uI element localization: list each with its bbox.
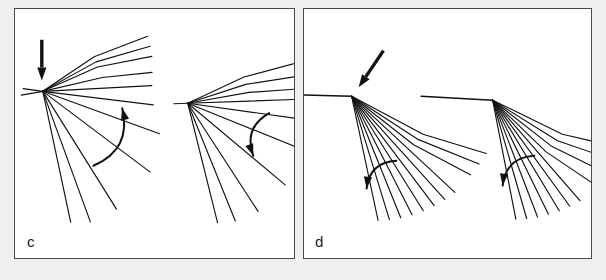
fan-diagram-d-right bbox=[421, 96, 591, 219]
panel-label-c: c bbox=[27, 234, 35, 249]
panel-c: c bbox=[14, 8, 295, 259]
panel-label-d: d bbox=[315, 234, 323, 249]
fan-diagram-c-right bbox=[174, 62, 294, 222]
panel-c-drawing bbox=[15, 9, 294, 258]
panel-d: d bbox=[303, 8, 592, 259]
figure-root: c d bbox=[0, 0, 606, 280]
fan-diagram-c-left bbox=[21, 36, 159, 222]
panel-d-drawing bbox=[304, 9, 591, 258]
fan-diagram-d-left bbox=[304, 51, 486, 221]
